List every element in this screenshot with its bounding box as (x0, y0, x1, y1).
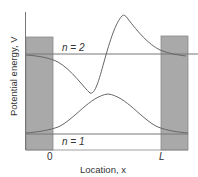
x-tick-zero: 0 (47, 151, 53, 162)
potential-well-diagram: n = 2 n = 1 0 L Location, x Potential en… (0, 0, 198, 177)
x-tick-L: L (159, 151, 165, 162)
level-label-n1: n = 1 (62, 136, 85, 147)
level-label-n2: n = 2 (62, 42, 85, 53)
x-axis-label: Location, x (80, 164, 126, 175)
y-axis-label: Potential energy, V (8, 36, 19, 116)
